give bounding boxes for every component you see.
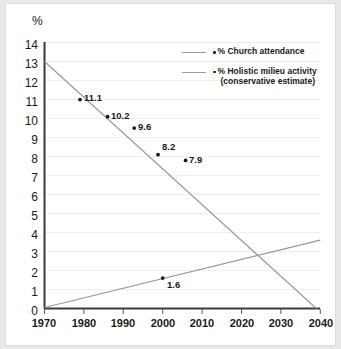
legend-line-icon	[182, 52, 206, 53]
legend-label-church-attendance: % Church attendance	[218, 46, 305, 57]
legend-dot-icon	[213, 71, 216, 74]
x-tick-1970: 1970	[24, 317, 64, 329]
plot-area: % 14 13 12 11 10 9 8 7 6 5 4 3 2 1 0	[6, 4, 335, 345]
data-label-9-6: 9.6	[138, 121, 151, 132]
legend-label-holistic-milieu: % Holistic milieu activity (conservative…	[218, 66, 317, 87]
legend-item-church-attendance[interactable]: % Church attendance	[182, 46, 332, 57]
legend-item-holistic-milieu[interactable]: % Holistic milieu activity (conservative…	[182, 66, 332, 87]
series-markers-holistic-milieu	[161, 276, 165, 280]
data-label-1-6: 1.6	[167, 279, 180, 290]
data-point-9-6	[132, 126, 136, 130]
legend-label-holistic-main: % Holistic milieu activity	[218, 66, 317, 76]
chart-figure: % 14 13 12 11 10 9 8 7 6 5 4 3 2 1 0	[6, 4, 335, 345]
data-label-7-9: 7.9	[189, 154, 202, 165]
data-point-8-2	[156, 153, 160, 157]
chart-legend: % Church attendance % Holistic milieu ac…	[182, 46, 332, 96]
x-tick-2000: 2000	[143, 317, 183, 329]
data-label-11-1: 11.1	[84, 92, 102, 103]
x-tick-marks	[45, 309, 321, 314]
data-label-8-2: 8.2	[162, 141, 175, 152]
data-label-10-2: 10.2	[111, 110, 130, 121]
x-tick-1980: 1980	[64, 317, 104, 329]
x-tick-2020: 2020	[222, 317, 262, 329]
data-point-7-9	[184, 159, 188, 163]
data-point-1-6	[161, 276, 165, 280]
x-tick-2040: 2040	[301, 317, 341, 329]
x-tick-2030: 2030	[261, 317, 301, 329]
x-tick-2010: 2010	[182, 317, 222, 329]
data-point-10-2	[106, 115, 110, 119]
legend-dot-icon	[213, 51, 216, 54]
legend-line-icon	[182, 72, 206, 73]
legend-label-holistic-sub: (conservative estimate)	[218, 76, 317, 87]
x-tick-1990: 1990	[103, 317, 143, 329]
data-point-11-1	[78, 98, 82, 102]
